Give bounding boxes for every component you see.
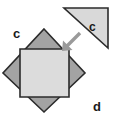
label-c-triangle: c: [89, 20, 96, 34]
geometry-figure-canvas: c c d: [0, 0, 115, 119]
geometry-figure-container: c c d: [0, 0, 115, 119]
label-c-outer: c: [13, 26, 20, 41]
label-d-corner: d: [93, 99, 101, 114]
inner-square: [20, 49, 69, 97]
